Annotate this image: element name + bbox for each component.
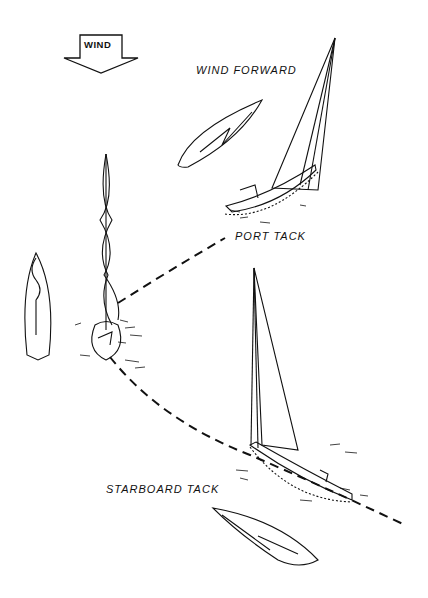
wind-label: WIND [84,39,111,50]
head-to-wind-sailboat-icon [92,154,121,360]
sailing-tack-diagram [0,0,428,598]
port-tack-topview-hull [178,100,262,167]
water-ripples [75,205,368,501]
starboard-tack-sailboat-icon [250,268,352,502]
wind-forward-label: WIND FORWARD [196,64,297,76]
port-tack-label: PORT TACK [235,230,306,242]
head-to-wind-topview-hull [25,253,51,360]
starboard-tack-topview-hull [213,508,318,565]
starboard-tack-label: STARBOARD TACK [106,483,219,495]
